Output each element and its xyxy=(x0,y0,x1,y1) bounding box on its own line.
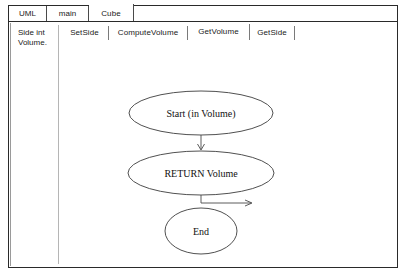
tab-setside[interactable]: SetSide xyxy=(61,26,109,40)
tab-main-label: main xyxy=(59,9,77,18)
tab-getvolume-label: GetVolume xyxy=(198,27,238,36)
class-detail-panel: Side int Volume. SetSide ComputeVolume G… xyxy=(8,21,398,268)
method-tabstrip: SetSide ComputeVolume GetVolume GetSide xyxy=(61,26,391,41)
node-end[interactable]: End xyxy=(165,208,237,254)
list-item[interactable]: Volume. xyxy=(18,38,60,48)
tab-setside-label: SetSide xyxy=(70,28,99,37)
list-item[interactable]: Side int xyxy=(18,28,60,38)
tab-getvolume[interactable]: GetVolume xyxy=(188,24,250,40)
node-return[interactable]: RETURN Volume xyxy=(128,151,274,195)
tab-main[interactable]: main xyxy=(47,6,89,22)
tab-getside[interactable]: GetSide xyxy=(250,26,295,40)
edge-elbow-path xyxy=(201,195,251,203)
activity-diagram-canvas[interactable]: Start (in Volume) RETURN Volume xyxy=(61,43,395,264)
attribute-pane[interactable]: Side int Volume. xyxy=(13,25,59,264)
node-return-label: RETURN Volume xyxy=(164,168,238,179)
uml-editor-window: UML main Cube Side int Volume. SetSide xyxy=(8,5,398,268)
class-detail-inner: Side int Volume. SetSide ComputeVolume G… xyxy=(10,23,396,266)
node-end-label: End xyxy=(193,226,209,237)
tab-computevolume[interactable]: ComputeVolume xyxy=(109,26,188,40)
tab-getside-label: GetSide xyxy=(257,28,287,37)
tab-uml-label: UML xyxy=(19,9,36,18)
edge-start-to-return xyxy=(198,135,205,150)
edge-return-elbow xyxy=(201,195,252,206)
tab-uml[interactable]: UML xyxy=(9,6,47,22)
tab-computevolume-label: ComputeVolume xyxy=(118,28,178,37)
tab-cube-label: Cube xyxy=(101,9,121,18)
activity-diagram-svg: Start (in Volume) RETURN Volume xyxy=(61,43,395,264)
node-start-label: Start (in Volume) xyxy=(166,108,235,120)
node-start[interactable]: Start (in Volume) xyxy=(129,91,273,135)
attribute-list: Side int Volume. xyxy=(18,28,60,48)
class-tabstrip: UML main Cube xyxy=(8,5,398,22)
